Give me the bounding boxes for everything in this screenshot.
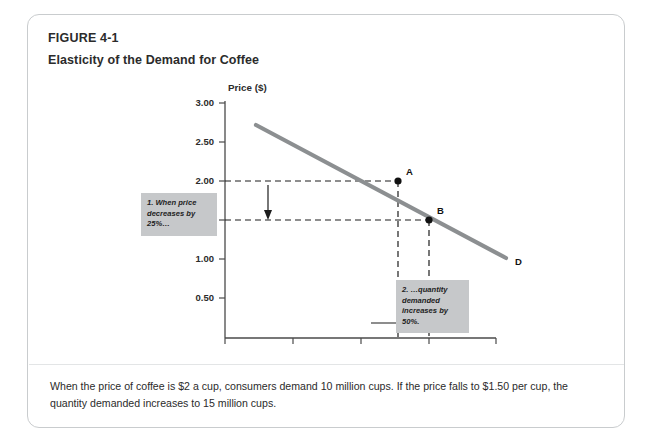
demand-curve-chart: 3.00 2.50 2.00 1.50 1.00 0.50 0 5 10 15 …	[28, 15, 626, 349]
y-tick-label-0-50: 0.50	[196, 292, 215, 303]
demand-curve-line	[256, 125, 506, 258]
price-decrease-arrow-head	[264, 210, 272, 220]
y-tick-label-2-50: 2.50	[196, 136, 215, 147]
y-tick-label-2-00: 2.00	[196, 175, 215, 186]
chart-plot-region: 3.00 2.50 2.00 1.50 1.00 0.50 0 5 10 15 …	[28, 15, 626, 349]
data-point-b	[425, 216, 432, 223]
y-tick-label-1-00: 1.00	[196, 253, 215, 264]
data-point-a-label: A	[406, 166, 413, 177]
caption-divider	[29, 364, 624, 365]
figure-caption: When the price of coffee is $2 a cup, co…	[50, 378, 602, 412]
data-point-b-label: B	[437, 205, 444, 216]
callout-quantity-increase: 2. …quantity demanded increases by 50%.	[396, 280, 469, 333]
data-point-a	[394, 177, 401, 184]
figure-card: FIGURE 4-1 Elasticity of the Demand for …	[27, 14, 625, 428]
callout-price-decrease: 1. When price decreases by 25%…	[141, 193, 217, 236]
y-tick-label-3-00: 3.00	[196, 97, 215, 108]
y-axis-title: Price ($)	[228, 82, 267, 93]
demand-curve-label: D	[515, 256, 522, 267]
